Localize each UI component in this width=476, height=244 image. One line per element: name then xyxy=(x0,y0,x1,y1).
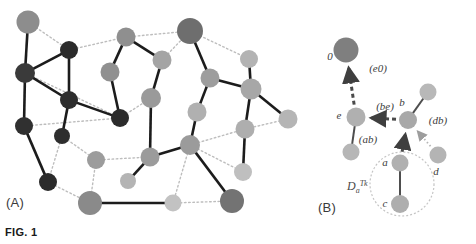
detail-edge-solid xyxy=(352,125,355,146)
detail-node-label-a: a xyxy=(382,156,388,168)
graph-edge-solid xyxy=(150,106,151,149)
detail-node-label-d: d xyxy=(433,165,439,177)
graph-edge-solid xyxy=(258,94,283,114)
detail-node xyxy=(347,108,366,127)
graph-edge-dotted xyxy=(76,39,118,49)
graph-edge-solid xyxy=(25,31,27,65)
graph-edge-solid xyxy=(195,151,226,193)
detail-node xyxy=(392,155,409,172)
figure-caption: FIG. 1 xyxy=(5,226,37,238)
detail-node-label-e: e xyxy=(337,109,342,121)
graph-node xyxy=(87,151,105,169)
graph-node xyxy=(165,195,182,212)
graph-edge-solid xyxy=(32,77,63,96)
panel-a-label: (A) xyxy=(6,195,24,210)
graph-edge-dotted xyxy=(253,121,280,127)
graph-node xyxy=(141,88,161,108)
detail-node xyxy=(334,38,359,63)
graph-node xyxy=(17,11,40,34)
graph-node xyxy=(153,51,172,70)
arrow-be xyxy=(371,118,396,119)
graph-edge-dotted xyxy=(68,140,90,156)
graph-node xyxy=(117,28,136,47)
arrow-db xyxy=(418,131,431,146)
detail-node xyxy=(343,144,360,161)
graph-edge-solid xyxy=(194,41,207,71)
detail-node xyxy=(430,147,447,164)
graph-node xyxy=(220,189,244,213)
graph-edge-dotted xyxy=(200,36,242,56)
graph-edge-dotted xyxy=(126,103,143,114)
graph-edge-solid xyxy=(27,133,45,176)
graph-node xyxy=(101,63,120,82)
graph-edge-dotted xyxy=(180,201,222,202)
graph-node xyxy=(60,91,78,109)
detail-edge-solid xyxy=(412,98,424,115)
graph-node xyxy=(120,173,136,189)
graph-node xyxy=(241,79,262,100)
detail-node-label-b: b xyxy=(399,96,405,108)
detail-node-label-0: 0 xyxy=(327,50,333,62)
graph-edge-solid xyxy=(112,79,119,111)
graph-edge-solid xyxy=(157,147,182,155)
arrow-label-be: (be) xyxy=(376,100,394,113)
graph-node xyxy=(111,109,129,127)
figure-container: 0ebdac(e0)(be)(ab)(db)DaTk (A) (B) FIG. … xyxy=(0,0,476,244)
figure-svg: 0ebdac(e0)(be)(ab)(db)DaTk xyxy=(0,0,476,244)
graph-edge-dotted xyxy=(198,131,237,142)
arrow-label-e0: (e0) xyxy=(369,62,387,75)
graph-node xyxy=(240,50,258,68)
graph-node xyxy=(234,163,252,181)
graph-edge-solid xyxy=(132,163,145,177)
graph-edge-solid xyxy=(24,81,25,119)
panel-b-labels: 0ebdac(e0)(be)(ab)(db)DaTk xyxy=(327,50,447,209)
graph-edge-solid xyxy=(76,102,113,115)
graph-edge-solid xyxy=(249,66,250,80)
graph-edge-dotted xyxy=(168,39,183,54)
graph-node xyxy=(177,18,203,44)
graph-edge-solid xyxy=(217,80,243,87)
graph-node xyxy=(15,63,35,83)
graph-edge-dotted xyxy=(134,32,179,36)
graph-edge-solid xyxy=(153,67,160,90)
graph-edge-solid xyxy=(132,41,155,56)
graph-node xyxy=(180,135,200,155)
graph-node xyxy=(236,120,255,139)
graph-edge-dotted xyxy=(32,119,113,126)
graph-edge-dotted xyxy=(36,28,63,46)
detail-node xyxy=(399,111,417,129)
panel-a-nodes xyxy=(15,11,298,216)
graph-edge-solid xyxy=(113,44,123,65)
graph-edge-dotted xyxy=(55,185,81,198)
arrow-label-db: (db) xyxy=(429,114,448,127)
detail-node-label-c: c xyxy=(383,197,388,209)
domain-set-label: DaTk xyxy=(346,179,368,195)
arrow-ab xyxy=(402,135,405,152)
graph-edge-dotted xyxy=(175,153,188,196)
graph-node xyxy=(54,128,70,144)
graph-node xyxy=(141,148,160,167)
graph-node xyxy=(201,69,220,88)
graph-edge-solid xyxy=(192,119,196,137)
detail-node xyxy=(391,195,409,213)
graph-node xyxy=(279,110,298,129)
graph-edge-solid xyxy=(63,107,67,130)
graph-node xyxy=(15,117,33,135)
graph-node xyxy=(39,173,57,191)
graph-node xyxy=(78,191,102,215)
graph-edge-dotted xyxy=(104,157,142,159)
graph-edge-dotted xyxy=(50,143,60,175)
graph-edge-solid xyxy=(246,97,250,121)
detail-node xyxy=(420,84,437,101)
graph-edge-dotted xyxy=(91,168,95,193)
graph-edge-dotted xyxy=(198,149,237,169)
graph-node xyxy=(60,41,78,59)
panel-b-label: (B) xyxy=(318,200,336,215)
graph-node xyxy=(188,103,207,122)
graph-edge-solid xyxy=(32,53,63,69)
graph-edge-solid xyxy=(200,85,208,105)
arrow-label-ab: (ab) xyxy=(359,133,378,146)
graph-edge-solid xyxy=(243,137,244,165)
arrow-e0 xyxy=(349,68,354,104)
